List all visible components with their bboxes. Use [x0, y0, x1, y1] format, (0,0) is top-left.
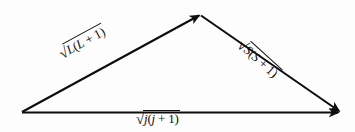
paren-close-j: )	[175, 111, 179, 126]
radicand-j: j(j + 1)	[143, 110, 180, 125]
vector-triangle-figure: √L(L + 1) √S(S + 1) √j(j + 1)	[0, 0, 355, 132]
plus-operator-j: +	[155, 111, 168, 126]
label-sqrt-j: √j(j + 1)	[136, 110, 180, 127]
vector-L-line	[22, 16, 199, 113]
